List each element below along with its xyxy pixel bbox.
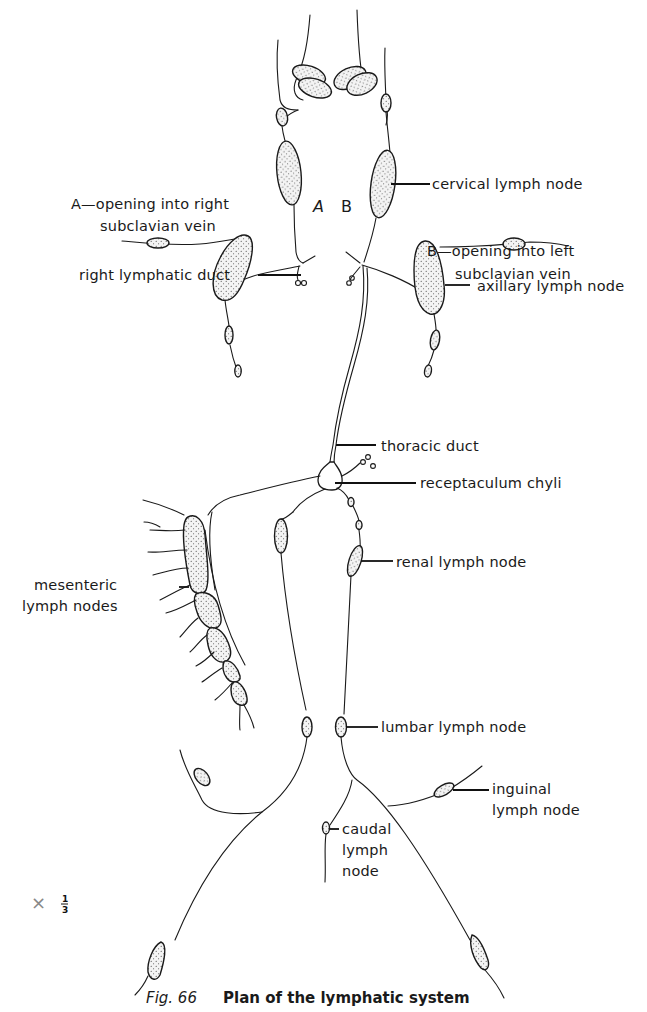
small-node-receptaculum-1: [348, 498, 354, 507]
label-caudal-line2: lymph: [342, 842, 388, 858]
upper-neck-node-right: [381, 94, 391, 112]
figure-title: Plan of the lymphatic system: [223, 989, 470, 1007]
axillary-lower-node-right-2: [235, 365, 241, 377]
axillary-lower-node-right-1: [225, 326, 233, 344]
axillary-lower-node-left-1: [429, 329, 441, 350]
label-opening-a-line1: A—opening into right: [71, 196, 229, 212]
scale-numerator: 1: [62, 894, 68, 904]
lumbar-node-left-side: [336, 717, 347, 737]
label-marker-a: A: [312, 197, 324, 216]
label-inguinal-line2: lymph node: [492, 802, 580, 818]
scale-denominator: 3: [62, 905, 68, 915]
small-node-receptaculum-2: [356, 521, 362, 530]
label-receptaculum-chyli: receptaculum chyli: [420, 475, 562, 491]
label-inguinal-line1: inguinal: [492, 781, 551, 797]
label-mesenteric-line2: lymph nodes: [22, 598, 118, 614]
labels: A B cervical lymph node A—opening into r…: [22, 176, 624, 879]
cervical-node-right-side: [274, 140, 305, 206]
scale-times-symbol: ×: [31, 892, 46, 913]
mesenteric-node-1: [183, 516, 208, 594]
label-renal-lymph-node: renal lymph node: [396, 554, 526, 570]
thoracic-duct: [330, 266, 368, 463]
label-cervical-lymph-node: cervical lymph node: [432, 176, 583, 192]
label-caudal-line1: caudal: [342, 821, 391, 837]
scale-indicator: × 1 3: [31, 892, 68, 915]
label-right-lymphatic-duct: right lymphatic duct: [79, 267, 230, 283]
upper-neck-node-left: [275, 107, 289, 127]
label-caudal-line3: node: [342, 863, 379, 879]
mesenteric-region: [143, 500, 254, 730]
label-lumbar-lymph-node: lumbar lymph node: [381, 719, 526, 735]
hindlimb-node-right: [148, 942, 165, 979]
subclavian-node-right: [147, 238, 169, 248]
label-opening-a-line2: subclavian vein: [100, 218, 216, 234]
hindlimb-node-left: [471, 935, 489, 970]
inguinal-node: [432, 780, 456, 800]
lumbar-node-right-side: [302, 717, 312, 737]
label-axillary-lymph-node: axillary lymph node: [477, 278, 624, 294]
label-mesenteric-line1: mesenteric: [34, 577, 117, 593]
caudal-node: [323, 822, 330, 834]
axillary-region: [213, 235, 444, 377]
mesenteric-node-3: [207, 628, 231, 662]
figure-caption: Fig. 66 Plan of the lymphatic system: [146, 989, 470, 1007]
mesenteric-node-4: [223, 661, 240, 682]
figure-number: Fig. 66: [146, 989, 197, 1007]
mesenteric-node-5: [231, 682, 247, 705]
axillary-lower-node-left-2: [424, 365, 433, 378]
label-thoracic-duct: thoracic duct: [381, 438, 479, 454]
renal-node-right-side: [275, 519, 288, 553]
label-marker-b: B: [341, 197, 352, 216]
lymphatic-system-diagram: A B cervical lymph node A—opening into r…: [0, 0, 647, 1012]
neck-region: [274, 10, 400, 263]
label-opening-b-line1: B—opening into left: [427, 243, 574, 259]
mesenteric-node-2: [195, 593, 222, 629]
